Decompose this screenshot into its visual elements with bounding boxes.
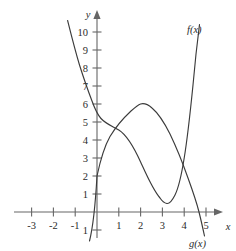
curve-label-g: g(x)	[189, 238, 206, 250]
y-tick-label--1: 1	[83, 225, 88, 236]
x-tick-label--1: -1	[71, 220, 80, 231]
y-tick-label-1: 1	[83, 189, 88, 200]
y-axis-label: y	[85, 9, 91, 20]
y-tick-label-8: 8	[83, 63, 88, 74]
curve-label-f: f(x)	[187, 24, 202, 36]
y-tick-label-4: 4	[83, 135, 89, 146]
x-axis-label: x	[225, 221, 231, 232]
y-tick-label-6: 6	[83, 99, 88, 110]
graph-figure: -3 -2 -1 1 2 3 4 5 1 2 3 4 5 6 7 8 9 10 …	[0, 0, 236, 251]
y-tick-label-9: 9	[83, 45, 88, 56]
y-tick-label-3: 3	[83, 153, 88, 164]
x-tick-label-4: 4	[182, 220, 188, 231]
x-tick-label-2: 2	[138, 220, 143, 231]
coordinate-plane-svg: -3 -2 -1 1 2 3 4 5 1 2 3 4 5 6 7 8 9 10 …	[0, 0, 236, 251]
x-tick-label--3: -3	[27, 220, 36, 231]
x-tick-label-3: 3	[160, 220, 165, 231]
y-axis-arrowhead	[93, 10, 100, 19]
y-tick-label-5: 5	[83, 117, 88, 128]
x-tick-label-5: 5	[203, 220, 208, 231]
x-axis-arrowhead	[214, 208, 223, 215]
y-tick-label-2: 2	[83, 171, 88, 182]
y-tick-label-10: 10	[78, 27, 89, 38]
x-tick-label--2: -2	[49, 220, 58, 231]
x-tick-label-1: 1	[116, 220, 121, 231]
curve-g	[90, 104, 205, 241]
